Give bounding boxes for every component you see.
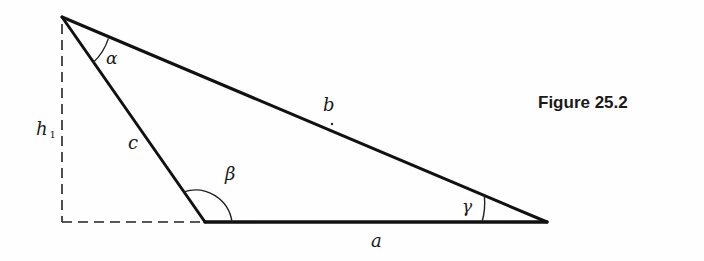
height-h1-label: h1 xyxy=(36,120,56,140)
angle-beta-arc xyxy=(184,190,232,222)
side-b-tick xyxy=(331,123,333,125)
side-b-label: b xyxy=(323,96,335,114)
angle-gamma-label: γ xyxy=(462,198,472,215)
angle-beta-label: β xyxy=(225,165,235,183)
side-c-label: c xyxy=(128,134,138,152)
angle-gamma-arc xyxy=(482,196,485,223)
diagram-canvas: α c β b h1 γ a Figure 25.2 xyxy=(0,0,704,261)
height-symbol: h xyxy=(36,118,48,139)
side-a-label: a xyxy=(371,232,382,250)
height-subscript: 1 xyxy=(50,129,56,140)
angle-alpha-label: α xyxy=(106,50,117,67)
figure-title: Figure 25.2 xyxy=(538,94,628,111)
triangle-figure xyxy=(0,0,704,261)
